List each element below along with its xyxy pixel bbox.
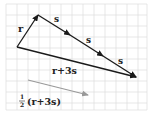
label-s-2: s	[86, 35, 91, 45]
label-half-expr: (r+3s)	[27, 96, 61, 107]
label-r-plus-3s: r+3s	[52, 65, 77, 76]
label-r: r	[18, 23, 24, 34]
fraction-denominator: 2	[20, 101, 24, 108]
fraction-numerator: 1	[20, 93, 24, 100]
vector-half-r-plus-3s	[28, 80, 88, 95]
label-s-1: s	[54, 14, 59, 24]
label-half-r-plus-3s: 1 2 (r+3s)	[19, 93, 61, 108]
vector-diagram: r s s s r+3s 1 2 (r+3s)	[0, 0, 151, 117]
label-s-3: s	[118, 56, 123, 66]
grid	[6, 4, 147, 110]
